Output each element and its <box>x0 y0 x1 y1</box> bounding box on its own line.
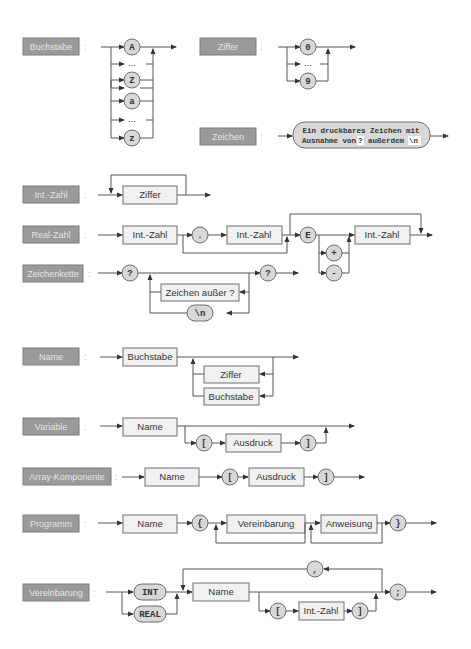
box-text: Ausdruck <box>233 437 273 448</box>
rule-real-zahl: Real-Zahl : Int.-Zahl . Int.-Zahl E + - … <box>23 214 432 281</box>
terminal-text: { <box>197 519 202 529</box>
rule-label-text: Ziffer <box>218 42 238 52</box>
rule-zeichen: Zeichen : Ein druckbares Zeichen mit Aus… <box>200 122 448 148</box>
terminal-text: , <box>312 565 317 575</box>
question-mark: ? <box>358 137 363 145</box>
rule-label-text: Int.-Zahl <box>34 190 67 200</box>
rule-label-text: Variable <box>35 422 67 432</box>
rule-label-text: Programm <box>30 519 72 529</box>
ellipsis: ... <box>304 57 312 68</box>
box-text: Name <box>137 421 162 432</box>
terminal-text: [ <box>275 607 280 617</box>
box-text: Vereinbarung <box>238 518 295 529</box>
rule-array-komponente: Array-Komponente : Name [ Ausdruck ] <box>23 468 364 486</box>
terminal-text: } <box>395 519 400 529</box>
box-text: Int.-Zahl <box>304 605 339 616</box>
box-text: Name <box>159 471 184 482</box>
terminal-text-line2b: außerdem <box>368 137 405 145</box>
box-text: Name <box>137 518 162 529</box>
rule-label-text: Buchstabe <box>30 42 73 52</box>
colon: : <box>260 132 263 142</box>
colon: : <box>93 588 96 598</box>
rule-programm: Programm : Name { Vereinbarung Anweisung… <box>23 515 436 543</box>
rule-zeichenkette: Zeichenkette : ? Zeichen außer ? \n ? <box>23 265 298 321</box>
rule-name: Name : Buchstabe Ziffer Buchstabe <box>23 348 298 405</box>
ellipsis: ... <box>128 113 136 124</box>
terminal-text: 9 <box>305 77 310 87</box>
terminal-text: A <box>129 43 135 53</box>
syntax-diagram: Buchstabe : A ... Z a ... z Ziffer <box>0 0 471 649</box>
rule-buchstabe-lower: a ... z <box>111 80 153 146</box>
box-text: Int.-Zahl <box>237 229 272 240</box>
rule-buchstabe: Buchstabe : A ... Z <box>23 38 176 88</box>
rule-label-text: Array-Komponente <box>29 472 105 482</box>
terminal-text: \n <box>195 309 206 319</box>
terminal-text: 0 <box>305 43 310 53</box>
rule-label-text: Zeichen <box>212 132 244 142</box>
terminal-text-line1: Ein druckbares Zeichen mit <box>302 127 419 135</box>
terminal-text: - <box>331 269 336 279</box>
terminal-text: + <box>331 249 336 259</box>
colon: : <box>84 352 87 362</box>
box-text: Ziffer <box>220 369 241 380</box>
rule-int-zahl: Int.-Zahl : Ziffer <box>23 175 210 204</box>
terminal-text: REAL <box>139 610 161 620</box>
colon: : <box>260 42 263 52</box>
rule-label-text: Vereinbarung <box>29 588 83 598</box>
terminal-text: . <box>197 231 202 241</box>
box-text: Anweisung <box>326 518 372 529</box>
terminal-text: ] <box>323 473 328 483</box>
terminal-text: a <box>129 97 135 107</box>
terminal-text: [ <box>201 439 206 449</box>
rule-vereinbarung: Vereinbarung : INT REAL Name [ Int.-Zahl… <box>23 561 436 622</box>
terminal-text: ] <box>357 607 362 617</box>
terminal-text: ] <box>305 439 310 449</box>
colon: : <box>88 269 91 279</box>
rule-label-text: Real-Zahl <box>31 230 70 240</box>
terminal-text: [ <box>227 473 232 483</box>
box-text: Name <box>208 586 233 597</box>
colon: : <box>84 190 87 200</box>
box-text: Buchstabe <box>128 351 173 362</box>
colon: : <box>84 230 87 240</box>
rule-ziffer: Ziffer : 0 ... 9 <box>200 38 355 89</box>
terminal-text: E <box>305 231 311 241</box>
terminal-text: Z <box>129 76 134 86</box>
box-text: Ausdruck <box>256 471 296 482</box>
colon: : <box>115 472 118 482</box>
colon: : <box>84 42 87 52</box>
colon: : <box>84 422 87 432</box>
box-text: Int.-Zahl <box>365 229 400 240</box>
terminal-text: ; <box>395 588 400 598</box>
terminal-text: z <box>129 134 134 144</box>
colon: : <box>84 519 87 529</box>
terminal-text: ? <box>265 269 270 279</box>
rule-label-text: Name <box>39 352 63 362</box>
box-text: Buchstabe <box>209 391 254 402</box>
box-text: Ziffer <box>139 189 160 200</box>
box-text: Zeichen außer ? <box>165 287 234 298</box>
ellipsis: ... <box>128 57 136 68</box>
box-text: Int.-Zahl <box>133 229 168 240</box>
terminal-text: INT <box>142 588 159 598</box>
terminal-text: ? <box>127 269 132 279</box>
terminal-text-line2a: Ausnahme von <box>302 137 357 145</box>
rule-variable: Variable : Name [ Ausdruck ] <box>23 418 354 452</box>
rule-label-text: Zeichenkette <box>27 269 79 279</box>
newline-escape: \n <box>409 137 419 145</box>
